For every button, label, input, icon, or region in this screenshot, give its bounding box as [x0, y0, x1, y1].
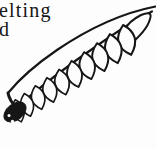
- page-fragment: elting d: [0, 0, 156, 149]
- cord-end-speck: [11, 120, 14, 123]
- cord-end-speck: [8, 114, 11, 117]
- cord-strands: [7, 13, 151, 123]
- welting-cord-illustration: [0, 0, 156, 149]
